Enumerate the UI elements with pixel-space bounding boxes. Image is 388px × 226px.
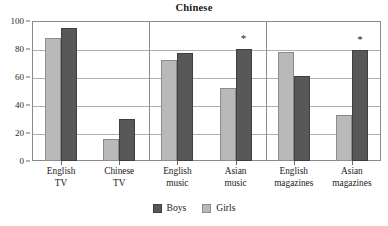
y-tick-label: 60 (15, 73, 24, 82)
legend-item-girls[interactable]: Girls (202, 203, 235, 213)
x-axis-label-line1: Chinese (104, 166, 134, 176)
x-axis-label-line2: TV (47, 178, 75, 190)
y-tick-label: 40 (15, 101, 24, 110)
legend-label: Boys (167, 203, 187, 213)
x-axis-label: EnglishTV (47, 166, 75, 189)
x-axis-label-line2: TV (104, 178, 134, 190)
x-axis-label-line2: magazines (274, 178, 313, 190)
legend-item-boys[interactable]: Boys (153, 203, 187, 213)
y-tick-mark (26, 161, 30, 162)
y-axis: 020406080100 (0, 21, 30, 161)
x-axis-label-line2: music (224, 178, 246, 190)
y-tick-mark (26, 49, 30, 50)
x-axis-label-line1: English (163, 166, 191, 176)
chart-container: Chinese 020406080100 ** EnglishTVChinese… (0, 0, 388, 226)
x-axis-label-line2: music (163, 178, 191, 190)
plot-area (32, 21, 381, 161)
x-tick-mark (352, 161, 353, 165)
x-axis-label-line2: magazines (332, 178, 371, 190)
y-tick-mark (26, 21, 30, 22)
y-tick-mark (26, 77, 30, 78)
legend-swatch-icon (153, 204, 162, 213)
y-tick-label: 20 (15, 129, 24, 138)
x-axis-label: Asianmusic (224, 166, 246, 189)
x-axis-label: ChineseTV (104, 166, 134, 189)
panel-divider (149, 22, 150, 160)
panel-divider (266, 22, 267, 160)
x-tick-mark (119, 161, 120, 165)
y-tick-label: 80 (15, 45, 24, 54)
x-tick-mark (294, 161, 295, 165)
y-tick-label: 100 (11, 17, 25, 26)
x-axis-label: Englishmagazines (274, 166, 313, 189)
chart-title: Chinese (0, 1, 388, 14)
chart-legend: BoysGirls (0, 203, 388, 213)
x-axis-label-line1: Asian (341, 166, 363, 176)
x-axis-label: Asianmagazines (332, 166, 371, 189)
y-tick-mark (26, 105, 30, 106)
gridline (33, 134, 380, 135)
legend-label: Girls (216, 203, 235, 213)
x-axis-label-line1: English (47, 166, 75, 176)
y-tick-label: 0 (20, 157, 25, 166)
x-tick-mark (177, 161, 178, 165)
x-axis-label: Englishmusic (163, 166, 191, 189)
x-axis-label-line1: Asian (225, 166, 247, 176)
x-axis-labels: EnglishTVChineseTVEnglishmusicAsianmusic… (32, 166, 381, 200)
y-tick-mark (26, 133, 30, 134)
legend-swatch-icon (202, 204, 211, 213)
gridline (33, 106, 380, 107)
x-tick-mark (61, 161, 62, 165)
x-tick-mark (236, 161, 237, 165)
x-axis-label-line1: English (280, 166, 308, 176)
gridline (33, 78, 380, 79)
gridline (33, 50, 380, 51)
